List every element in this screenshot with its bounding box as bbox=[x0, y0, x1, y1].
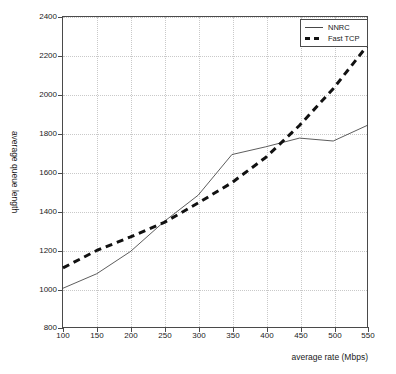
y-ticklabel-1800: 1800 bbox=[39, 130, 57, 138]
x-axis-title: average rate (Mbps) bbox=[62, 352, 368, 363]
x-ticklabel-100: 100 bbox=[56, 332, 69, 340]
series-line-nnrc bbox=[63, 126, 367, 289]
y-ticklabel-2200: 2200 bbox=[39, 52, 57, 60]
chart-legend: NNRC Fast TCP bbox=[300, 19, 368, 47]
solid-line-swatch-icon bbox=[304, 23, 324, 32]
chart-figure: average queue length 2400 2200 bbox=[0, 0, 396, 374]
y-ticklabel-2400: 2400 bbox=[39, 13, 57, 21]
legend-entry-nnrc: NNRC bbox=[304, 23, 363, 32]
x-ticklabel-400: 400 bbox=[260, 332, 273, 340]
y-ticklabel-1400: 1400 bbox=[39, 208, 57, 216]
x-ticklabel-150: 150 bbox=[90, 332, 103, 340]
y-ticklabel-800: 800 bbox=[44, 324, 57, 332]
dashed-line-swatch-icon bbox=[304, 34, 324, 43]
y-ticklabel-1600: 1600 bbox=[39, 169, 57, 177]
x-ticklabel-550: 550 bbox=[361, 332, 374, 340]
legend-label-fast-tcp: Fast TCP bbox=[328, 34, 360, 43]
y-ticklabel-1200: 1200 bbox=[39, 247, 57, 255]
legend-label-nnrc: NNRC bbox=[328, 23, 350, 32]
x-ticklabel-300: 300 bbox=[192, 332, 205, 340]
x-ticklabel-500: 500 bbox=[328, 332, 341, 340]
plot-area: 2400 2200 2000 1800 1600 1400 1200 1000 … bbox=[62, 16, 368, 328]
series-line-fast-tcp bbox=[63, 46, 367, 268]
y-ticklabel-2000: 2000 bbox=[39, 91, 57, 99]
x-ticklabel-450: 450 bbox=[294, 332, 307, 340]
y-ticklabel-1000: 1000 bbox=[39, 286, 57, 294]
x-ticklabel-200: 200 bbox=[124, 332, 137, 340]
y-axis-title: average queue length bbox=[8, 16, 22, 328]
x-ticklabel-250: 250 bbox=[158, 332, 171, 340]
series-canvas bbox=[63, 17, 367, 327]
y-axis-title-container: average queue length bbox=[0, 0, 30, 374]
legend-entry-fast-tcp: Fast TCP bbox=[304, 34, 363, 43]
x-ticklabel-350: 350 bbox=[226, 332, 239, 340]
